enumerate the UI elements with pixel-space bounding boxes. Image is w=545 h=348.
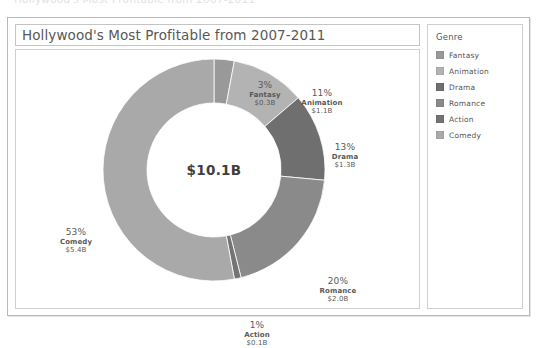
- legend-label-animation: Animation: [449, 67, 489, 76]
- legend-swatch-action: [436, 115, 444, 123]
- slice-value-romance: $2.0B: [302, 295, 374, 303]
- slice-percent-animation: 11%: [286, 88, 358, 99]
- slice-name-action: Action: [224, 331, 290, 339]
- legend-item-romance[interactable]: Romance: [436, 96, 522, 110]
- donut-slice-romance[interactable]: [230, 176, 324, 277]
- legend-swatch-romance: [436, 99, 444, 107]
- legend-item-action[interactable]: Action: [436, 112, 522, 126]
- slice-label-romance: 20% Romance $2.0B: [302, 276, 374, 304]
- slice-value-drama: $1.3B: [314, 161, 376, 169]
- chart-title: Hollywood's Most Profitable from 2007-20…: [15, 24, 420, 46]
- slice-name-animation: Animation: [286, 99, 358, 107]
- legend-label-drama: Drama: [449, 83, 475, 92]
- visualization-frame: Hollywood's Most Profitable from 2007-20…: [7, 17, 530, 316]
- legend-label-fantasy: Fantasy: [449, 51, 479, 60]
- slice-label-action: 1% Action $0.1B: [224, 320, 290, 348]
- legend-swatch-comedy: [436, 131, 444, 139]
- legend-item-list: FantasyAnimationDramaRomanceActionComedy: [436, 48, 522, 142]
- clipped-page-text: Hollywood's Most Profitable from 2007-20…: [14, 0, 255, 5]
- slice-label-comedy: 53% Comedy $5.4B: [40, 227, 112, 255]
- chart-panel: Hollywood's Most Profitable from 2007-20…: [15, 24, 420, 309]
- legend-label-romance: Romance: [449, 99, 485, 108]
- legend-item-comedy[interactable]: Comedy: [436, 128, 522, 142]
- slice-name-romance: Romance: [302, 287, 374, 295]
- slice-percent-romance: 20%: [302, 276, 374, 287]
- legend-item-fantasy[interactable]: Fantasy: [436, 48, 522, 62]
- legend-swatch-animation: [436, 67, 444, 75]
- slice-value-animation: $1.1B: [286, 107, 358, 115]
- slice-label-animation: 11% Animation $1.1B: [286, 88, 358, 116]
- legend-swatch-fantasy: [436, 51, 444, 59]
- donut-center-total: $10.1B: [100, 162, 328, 178]
- legend-label-comedy: Comedy: [449, 131, 481, 140]
- legend-swatch-drama: [436, 83, 444, 91]
- slice-value-comedy: $5.4B: [40, 246, 112, 254]
- slice-name-comedy: Comedy: [40, 238, 112, 246]
- slice-name-drama: Drama: [314, 153, 376, 161]
- slice-percent-comedy: 53%: [40, 227, 112, 238]
- legend-panel: Genre FantasyAnimationDramaRomanceAction…: [427, 24, 523, 309]
- chart-body: $10.1B 3% Fantasy $0.3B 11% Animation $1…: [15, 49, 420, 309]
- slice-percent-drama: 13%: [314, 142, 376, 153]
- legend-item-animation[interactable]: Animation: [436, 64, 522, 78]
- slice-value-action: $0.1B: [224, 339, 290, 347]
- legend-item-drama[interactable]: Drama: [436, 80, 522, 94]
- legend-title: Genre: [436, 32, 522, 42]
- slice-percent-action: 1%: [224, 320, 290, 331]
- legend-label-action: Action: [449, 115, 474, 124]
- slice-label-drama: 13% Drama $1.3B: [314, 142, 376, 170]
